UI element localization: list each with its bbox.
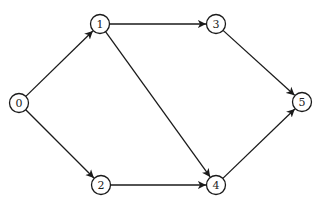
edge-3-to-5 (223, 30, 295, 95)
node-label: 3 (213, 18, 220, 31)
node-0: 0 (10, 94, 29, 113)
node-label: 2 (98, 179, 105, 192)
graph-canvas: 012345 (0, 0, 321, 208)
node-5: 5 (293, 93, 312, 112)
node-2: 2 (92, 176, 111, 195)
node-1: 1 (91, 15, 110, 34)
node-label: 5 (299, 96, 306, 109)
graph-diagram: 012345 (0, 0, 321, 208)
nodes: 012345 (10, 15, 312, 195)
node-label: 4 (213, 179, 220, 192)
node-4: 4 (207, 176, 226, 195)
edge-1-to-4 (106, 32, 211, 177)
edge-4-to-5 (223, 109, 295, 178)
node-label: 1 (97, 18, 104, 31)
edge-0-to-2 (26, 110, 94, 178)
node-3: 3 (207, 15, 226, 34)
node-label: 0 (16, 97, 23, 110)
edge-0-to-1 (26, 31, 93, 96)
edges (26, 24, 295, 185)
